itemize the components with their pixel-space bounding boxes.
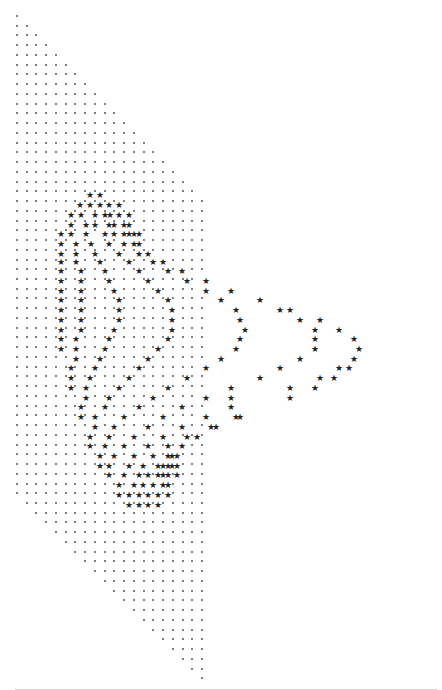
star-icon: ★ [330,374,339,383]
grid-dot [201,210,203,212]
grid-dot [201,424,203,426]
grid-dot [16,220,18,222]
grid-dot [84,366,86,368]
star-icon: ★ [115,491,124,500]
grid-dot [65,122,67,124]
grid-dot [26,210,28,212]
grid-dot [26,336,28,338]
grid-dot [123,521,125,523]
grid-dot [113,171,115,173]
star-icon: ★ [115,306,124,315]
star-icon: ★ [86,191,95,200]
grid-dot [172,181,174,183]
grid-dot [172,395,174,397]
grid-dot [65,181,67,183]
grid-dot [113,112,115,114]
grid-dot [26,122,28,124]
grid-dot [16,297,18,299]
grid-dot [35,181,37,183]
grid-dot [26,434,28,436]
grid-dot [123,560,125,562]
grid-dot [16,366,18,368]
grid-dot [26,327,28,329]
grid-dot [182,317,184,319]
grid-dot [74,112,76,114]
grid-dot [172,648,174,650]
grid-dot [84,531,86,533]
grid-dot [191,336,193,338]
grid-dot [172,278,174,280]
grid-dot [26,414,28,416]
grid-dot [94,492,96,494]
grid-dot [45,473,47,475]
grid-dot [201,483,203,485]
star-icon: ★ [57,316,66,325]
grid-dot [113,122,115,124]
grid-dot [16,112,18,114]
grid-dot [152,521,154,523]
grid-dot [162,366,164,368]
star-icon: ★ [125,501,134,510]
grid-dot [104,512,106,514]
grid-dot [172,560,174,562]
grid-dot [26,64,28,66]
grid-dot [26,483,28,485]
grid-dot [45,229,47,231]
grid-dot [26,200,28,202]
star-icon: ★ [115,211,124,220]
grid-dot [84,521,86,523]
grid-dot [65,151,67,153]
star-icon: ★ [115,316,124,325]
grid-dot [45,142,47,144]
grid-dot [45,200,47,202]
grid-dot [45,385,47,387]
grid-dot [201,327,203,329]
star-icon: ★ [77,413,86,422]
grid-dot [152,297,154,299]
star-icon: ★ [96,452,105,461]
grid-dot [172,366,174,368]
star-icon: ★ [57,306,66,315]
grid-dot [65,83,67,85]
grid-dot [84,541,86,543]
grid-dot [35,385,37,387]
grid-dot [162,200,164,202]
grid-dot [84,93,86,95]
star-icon: ★ [57,345,66,354]
grid-dot [35,375,37,377]
grid-dot [191,609,193,611]
grid-dot [201,297,203,299]
grid-dot [113,278,115,280]
star-icon: ★ [159,413,168,422]
grid-dot [143,434,145,436]
grid-dot [123,453,125,455]
grid-dot [172,512,174,514]
grid-dot [65,483,67,485]
grid-dot [113,551,115,553]
grid-dot [152,531,154,533]
grid-dot [182,297,184,299]
grid-dot [182,200,184,202]
star-icon: ★ [202,287,211,296]
grid-dot [191,327,193,329]
star-icon: ★ [144,471,153,480]
grid-dot [55,112,57,114]
grid-dot [201,531,203,533]
grid-dot [45,112,47,114]
grid-dot [201,405,203,407]
grid-dot [113,151,115,153]
star-icon: ★ [154,491,163,500]
grid-dot [16,83,18,85]
star-icon: ★ [311,384,320,393]
grid-dot [152,190,154,192]
grid-dot [201,638,203,640]
grid-dot [84,463,86,465]
grid-dot [65,200,67,202]
grid-dot [152,570,154,572]
grid-dot [16,483,18,485]
grid-dot [152,336,154,338]
grid-dot [26,346,28,348]
grid-dot [113,366,115,368]
grid-dot [152,580,154,582]
grid-dot [104,297,106,299]
